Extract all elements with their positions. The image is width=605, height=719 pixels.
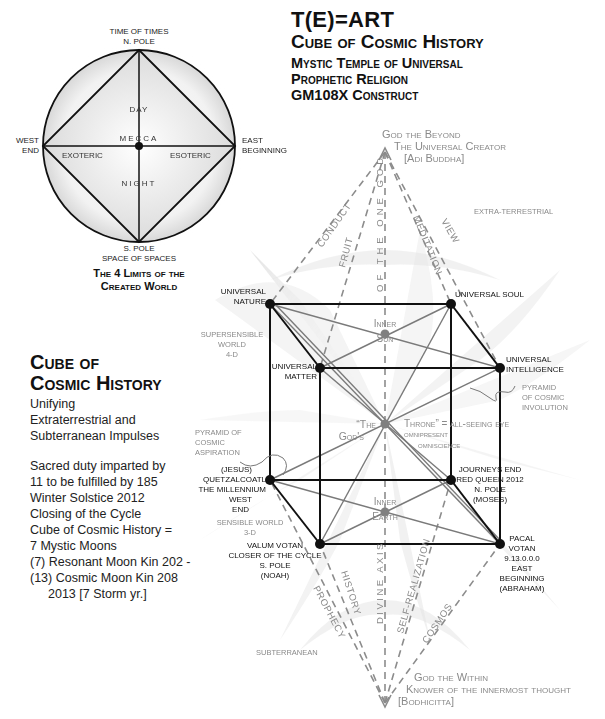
body-line: 7 Mystic Moons (30, 538, 191, 554)
header: T(E)=ART Cube of Cosmic History Mystic T… (291, 8, 484, 103)
universal-creator-text: The Universal Creator (382, 140, 506, 152)
label-line: omnipresent (404, 429, 509, 440)
label-line: SUPERSENSIBLE (199, 330, 265, 340)
label-line: OF COSMIC (522, 393, 568, 403)
label-line: S. POLE (225, 561, 325, 571)
intro-line: Unifying (30, 396, 191, 412)
label-line: NATURE (210, 297, 266, 307)
path-label-one-god: OF THE ONE GOD (374, 154, 385, 292)
path-label-divine-axis: DIVINE AXIS (374, 541, 385, 624)
bodhicitta-text: [Bodhicitta] (398, 695, 571, 707)
label-line: ASPIRATION (195, 448, 242, 458)
label-line: UNIVERSAL (506, 355, 564, 365)
intro-line: Subterranean Impulses (30, 428, 191, 444)
center-left-label: “The God's (325, 418, 380, 442)
label-line: 4-D (199, 350, 265, 360)
mecca-dot (135, 142, 143, 150)
label-line: QUETZALCOATL (188, 475, 266, 485)
center-right-label: Throne” = all-seeing eye omnipresent omn… (404, 418, 509, 451)
west-text: WEST (11, 136, 39, 146)
universal-matter-label: UNIVERSAL MATTER (262, 362, 317, 382)
night-label: NIGHT (114, 179, 164, 188)
label-line: (JESUS) (188, 465, 266, 475)
side-intro: Unifying Extraterrestrial and Subterrane… (30, 396, 191, 444)
label-line: Throne” = all-seeing eye (404, 418, 509, 429)
label-line: God's (325, 430, 380, 442)
body-line: 11 to be fulfilled by 185 (30, 474, 191, 490)
four-limits-circle (33, 40, 245, 252)
side-title-line-1: Cube of (30, 352, 191, 373)
label-line: THE MILLENNIUM (188, 485, 266, 495)
path-label-view: VIEW (439, 217, 462, 246)
vertex-quetzalcoatl (265, 475, 275, 485)
upper-path-lines (270, 152, 500, 424)
label-line: VALUM VOTAN (225, 541, 325, 551)
esoteric-label: ESOTERIC (170, 151, 211, 160)
n-pole-text: N. POLE (99, 37, 179, 47)
path-label-history: HISTORY (339, 569, 364, 616)
label-line: Inner (363, 316, 407, 331)
label-line: (MOSES) (455, 495, 525, 505)
label-line: PYRAMID (522, 383, 568, 393)
extra-terrestrial-label: EXTRA-TERRESTRIAL (474, 207, 553, 216)
knower-text: Knower of the innermost thought (398, 683, 571, 695)
label-line: INVOLUTION (522, 403, 568, 413)
time-of-times-text: TIME OF TIMES (99, 27, 179, 37)
adi-buddha-text: [Adi Buddha] (382, 152, 506, 164)
throne-center-node (381, 420, 390, 429)
side-title-line-2: Cosmic History (30, 373, 191, 394)
label-line: Sun (363, 331, 407, 346)
valum-votan-label: VALUM VOTAN CLOSER OF THE CYCLE S. POLE … (225, 541, 325, 581)
god-within-text: God the Within (398, 671, 571, 683)
inner-earth-label: Inner Earth (363, 494, 407, 524)
side-body: Sacred duty imparted by 11 to be fulfill… (30, 458, 191, 602)
caption-line-1: The 4 Limits of the (79, 267, 199, 280)
label-line: Inner (363, 494, 407, 509)
label-line: CLOSER OF THE CYCLE (225, 551, 325, 561)
south-pole-label: S. POLE SPACE OF SPACES (84, 244, 194, 264)
beginning-text: BEGINNING (242, 146, 287, 156)
label-line: PACAL (497, 534, 547, 544)
space-of-spaces-text: SPACE OF SPACES (84, 254, 194, 264)
god-beyond-text: God the Beyond (382, 128, 506, 140)
universal-intelligence-label: UNIVERSAL INTELLIGENCE (506, 355, 564, 375)
label-line: WEST (188, 495, 266, 505)
east-label: EAST BEGINNING (242, 136, 287, 156)
pacal-votan-label: PACAL VOTAN 9.13.0.0.0 EAST BEGINNING (A… (497, 534, 547, 594)
label-line: SENSIBLE WORLD (210, 518, 290, 528)
body-line: Winter Solstice 2012 (30, 490, 191, 506)
label-line: BEGINNING (497, 574, 547, 584)
label-line: PYRAMID OF (195, 428, 242, 438)
label-line: “The (325, 418, 380, 430)
pyramid-involution-label: PYRAMID OF COSMIC INVOLUTION (522, 383, 568, 413)
header-line-3: GM108X Construct (291, 87, 484, 103)
body-line: 2013 [7 Storm yr.] (30, 586, 191, 602)
top-apex-label: God the Beyond The Universal Creator [Ad… (382, 128, 506, 164)
label-line: (ABRAHAM) (497, 584, 547, 594)
vertex-universal-soul (446, 299, 456, 309)
inner-sun-label: Inner Sun (363, 316, 407, 346)
label-line: JOURNEYS END (455, 465, 525, 475)
page-subtitle: Cube of Cosmic History (291, 32, 484, 52)
sensible-world-label: SENSIBLE WORLD 3-D (210, 518, 290, 538)
header-line-2: Prophetic Religion (291, 71, 484, 87)
label-line: MATTER (262, 372, 317, 382)
day-label: DAY (124, 105, 154, 114)
label-line: 3-D (210, 528, 290, 538)
label-line: WORLD (199, 340, 265, 350)
journeys-end-label: JOURNEYS END RED QUEEN 2012 N. POLE (MOS… (455, 465, 525, 505)
label-line: COSMIC (195, 438, 242, 448)
subterranean-label: SUBTERRANEAN (256, 648, 318, 657)
body-line: Cube of Cosmic History = (30, 522, 191, 538)
label-line: 9.13.0.0.0 (497, 554, 547, 564)
label-line: (NOAH) (225, 571, 325, 581)
label-line: END (188, 505, 266, 515)
label-line: UNIVERSAL (210, 287, 266, 297)
path-labels: CONDUCT FRUIT OF THE ONE GOD MEDITATION … (311, 154, 462, 645)
label-line: UNIVERSAL (262, 362, 317, 372)
north-pole-label: TIME OF TIMES N. POLE (99, 27, 179, 47)
supersensible-label: SUPERSENSIBLE WORLD 4-D (199, 330, 265, 360)
caption-line-2: Created World (79, 280, 199, 293)
exoteric-label: EXOTERIC (62, 151, 103, 160)
east-text: EAST (242, 136, 287, 146)
